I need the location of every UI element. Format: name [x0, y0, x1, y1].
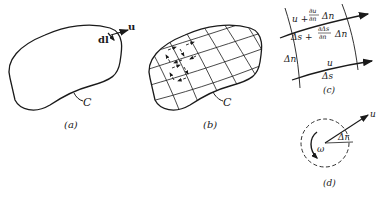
label-side-dn: Δn [283, 54, 296, 64]
caption-a: (a) [64, 119, 78, 130]
label-ds-frac-num: ∂Δs [318, 25, 330, 33]
label-ds-frac-den: ∂n [319, 33, 327, 41]
label-top-frac-num: ∂u [309, 7, 317, 15]
label-bottom-ds: Δs [321, 71, 333, 81]
circulation-arrows [166, 42, 196, 81]
label-top-dn: Δn [321, 11, 334, 21]
label-c-b: C [223, 96, 232, 109]
label-ds-dn: Δn [334, 29, 347, 39]
label-top-u: u + [292, 14, 308, 24]
label-omega: ω [317, 144, 325, 154]
label-dl: dl [98, 34, 109, 45]
panel-b: C (b) [140, 10, 280, 130]
caption-c: (c) [323, 85, 336, 95]
label-u-d: u [370, 109, 376, 119]
label-top-frac-den: ∂n [309, 15, 317, 23]
caption-d: (d) [323, 178, 336, 188]
velocity-arrow [111, 30, 128, 35]
caption-b: (b) [203, 119, 217, 130]
panel-d: u Δr ω (d) [301, 109, 376, 188]
label-u: u [128, 21, 135, 32]
panel-a: u dl C (a) [9, 21, 135, 130]
label-dr: Δr [337, 132, 349, 142]
label-bottom-u: u [327, 58, 333, 68]
panel-c: u + ∂u ∂n Δn Δs + ∂Δs ∂n Δn Δn u Δs (c) [280, 4, 372, 95]
label-ds-plus: Δs + [290, 32, 313, 42]
figure-canvas: u dl C (a) [0, 0, 384, 198]
label-c-a: C [83, 96, 92, 109]
